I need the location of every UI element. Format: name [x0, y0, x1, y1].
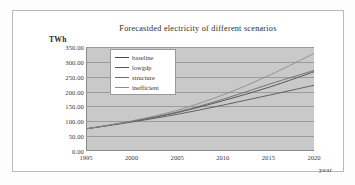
legend-label: structure	[132, 74, 155, 81]
legend-item-baseline[interactable]: baseline	[113, 52, 173, 62]
y-axis-tick: 100.00	[65, 118, 84, 125]
y-axis-tick-labels: 0.0050.00100.00150.00200.00250.00300.003…	[43, 47, 84, 151]
x-axis-tick: 2000	[125, 154, 138, 161]
legend-label: baseline	[132, 54, 153, 61]
legend-item-inefficient[interactable]: inefficient	[113, 82, 173, 92]
y-axis-tick: 50.00	[69, 133, 84, 140]
x-axis-tick: 2020	[307, 154, 320, 161]
y-axis-tick: 300.00	[65, 58, 84, 65]
screenshot-canvas: Forecastded electricity of different sce…	[0, 0, 355, 185]
y-axis-tick: 200.00	[65, 88, 84, 95]
y-axis-tick: 150.00	[65, 103, 84, 110]
legend-label: lowgdp	[132, 64, 152, 71]
x-axis-label: year	[319, 166, 332, 173]
legend-item-lowgdp[interactable]: lowgdp	[113, 62, 173, 72]
x-axis-tick-labels: 199520002005201020152020	[86, 154, 314, 166]
x-axis-tick: 2005	[171, 154, 184, 161]
legend-swatch-icon	[115, 57, 129, 58]
legend-item-structure[interactable]: structure	[113, 72, 173, 82]
legend-label: inefficient	[132, 84, 159, 91]
x-axis-tick: 2010	[216, 154, 229, 161]
y-axis-tick: 350.00	[65, 44, 84, 51]
chart-legend: baselinelowgdpstructureinefficient	[110, 49, 176, 95]
legend-swatch-icon	[115, 77, 129, 78]
chart-frame: Forecastded electricity of different sce…	[12, 10, 344, 172]
y-axis-tick: 250.00	[65, 73, 84, 80]
x-axis-tick: 2015	[262, 154, 275, 161]
chart-title: Forecastded electricity of different sce…	[73, 24, 323, 33]
x-axis-tick: 1995	[79, 154, 92, 161]
legend-swatch-icon	[115, 87, 129, 88]
y-axis-unit-label: TWh	[49, 35, 67, 44]
legend-swatch-icon	[115, 67, 129, 68]
